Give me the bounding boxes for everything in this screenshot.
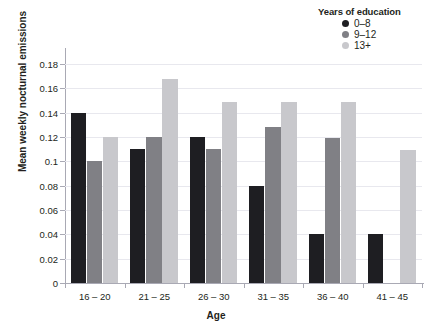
x-category-label: 41 – 45 <box>376 291 408 302</box>
bar <box>130 149 145 283</box>
gridline <box>65 210 422 211</box>
bar <box>400 150 415 283</box>
bar <box>87 161 102 283</box>
x-category-label: 31 – 35 <box>257 291 289 302</box>
bar <box>206 149 221 283</box>
y-tick-label: 0.08 <box>0 180 67 191</box>
legend-title: Years of education <box>318 6 430 17</box>
y-tick-label: 0.04 <box>0 229 67 240</box>
x-category-label: 36 – 40 <box>317 291 349 302</box>
x-category-label: 16 – 20 <box>79 291 111 302</box>
gridline <box>65 64 422 65</box>
legend-item-13-plus: 13+ <box>342 40 430 50</box>
y-tick-label: 0.14 <box>0 107 67 118</box>
legend-label-9-12: 9–12 <box>354 29 376 40</box>
bar <box>341 102 356 283</box>
bar <box>281 102 296 283</box>
y-tick-label: 0.02 <box>0 253 67 264</box>
bar <box>222 102 237 283</box>
bar <box>368 234 383 283</box>
legend-item-0-8: 0–8 <box>342 18 430 28</box>
bar <box>309 234 324 283</box>
gridline <box>65 161 422 162</box>
gridline <box>65 88 422 89</box>
x-tick <box>65 283 66 288</box>
legend-item-9-12: 9–12 <box>342 29 430 39</box>
x-axis-title: Age <box>0 310 432 321</box>
gridline <box>65 137 422 138</box>
x-category-label: 21 – 25 <box>138 291 170 302</box>
x-tick <box>303 283 304 288</box>
bar <box>103 137 118 283</box>
gridline <box>65 113 422 114</box>
bar <box>325 138 340 283</box>
legend-swatch-0-8 <box>342 20 349 27</box>
y-tick-label: 0.06 <box>0 205 67 216</box>
gridline <box>65 186 422 187</box>
y-tick-label: 0.16 <box>0 83 67 94</box>
x-category-label: 26 – 30 <box>198 291 230 302</box>
x-tick <box>244 283 245 288</box>
x-tick <box>422 283 423 288</box>
bar <box>249 186 264 283</box>
bar <box>190 137 205 283</box>
legend-label-13-plus: 13+ <box>354 40 371 51</box>
bar <box>146 137 161 283</box>
bar <box>71 113 86 283</box>
plot-area <box>65 52 422 283</box>
x-tick <box>363 283 364 288</box>
y-tick-label: 0 <box>0 278 67 289</box>
x-tick <box>125 283 126 288</box>
chart-legend: Years of education 0–8 9–12 13+ <box>318 6 430 50</box>
y-tick-label: 0.18 <box>0 59 67 70</box>
bar <box>162 79 177 283</box>
x-tick <box>184 283 185 288</box>
legend-swatch-9-12 <box>342 31 349 38</box>
bar-chart-figure: Years of education 0–8 9–12 13+ Mean wee… <box>0 0 432 332</box>
legend-swatch-13-plus <box>342 42 349 49</box>
legend-label-0-8: 0–8 <box>354 18 371 29</box>
bar <box>265 127 280 283</box>
y-tick-label: 0.12 <box>0 132 67 143</box>
y-tick-label: 0.1 <box>0 156 67 167</box>
